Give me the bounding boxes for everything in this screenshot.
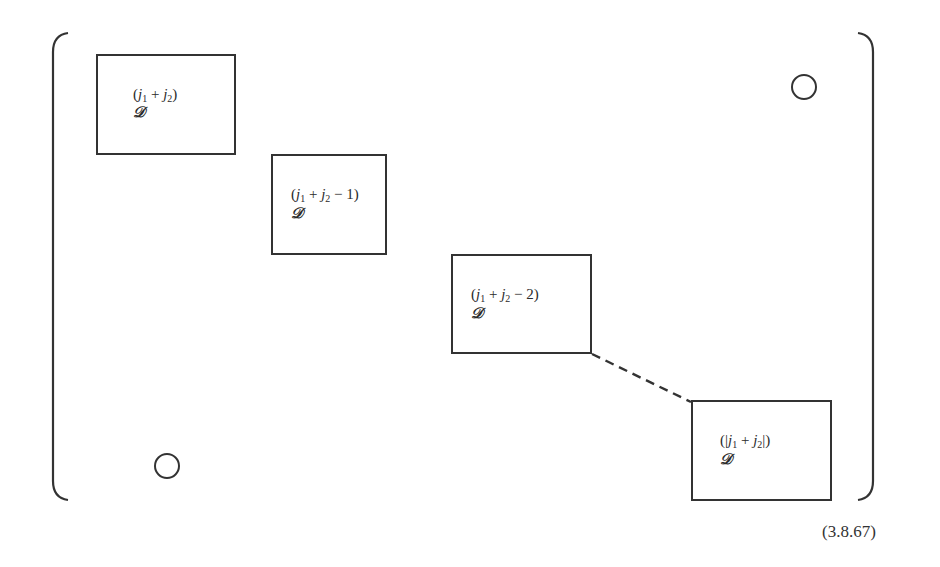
equation-number: (3.8.67) (822, 522, 876, 542)
right-bracket (858, 33, 873, 500)
block-3-symbol: 𝒟 (471, 304, 483, 322)
block-4-symbol: 𝒟 (720, 450, 732, 468)
zero-circle-icon (155, 454, 179, 478)
zero-circle-icon (792, 75, 816, 99)
left-bracket (53, 33, 68, 500)
block-2-symbol: 𝒟 (291, 204, 303, 222)
dashed-ellipsis-connector (592, 354, 691, 402)
block-1-symbol: 𝒟 (133, 103, 145, 121)
